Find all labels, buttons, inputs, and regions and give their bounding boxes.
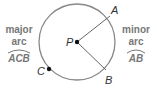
label-c: C — [37, 65, 45, 77]
radius-pa — [77, 16, 110, 42]
minor-arc-name: AB — [128, 53, 143, 64]
center-point — [75, 40, 79, 44]
label-p: P — [66, 36, 74, 48]
minor-arc-line2: arc — [128, 36, 143, 47]
radius-pb — [77, 42, 106, 70]
minor-arc-line1: minor — [122, 24, 150, 35]
major-arc-line2: arc — [11, 36, 26, 47]
circle-arcs-diagram: P A B C major arc ACB minor arc AB — [0, 0, 157, 88]
label-a: A — [110, 4, 118, 16]
label-b: B — [105, 74, 112, 86]
major-arc-name: ACB — [7, 53, 30, 64]
major-arc-line1: major — [5, 24, 32, 35]
point-c — [47, 67, 51, 71]
